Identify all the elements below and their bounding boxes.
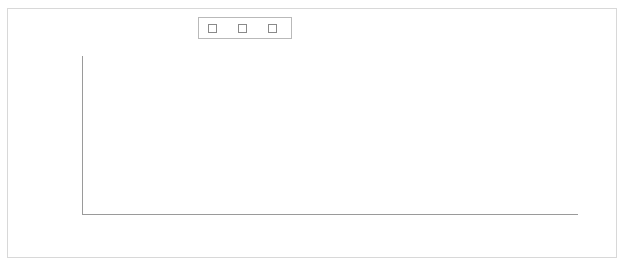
bar-chart	[0, 0, 624, 265]
legend-swatch-total-cash-outflows	[238, 24, 247, 33]
y-axis-line	[82, 56, 83, 215]
chart-frame	[7, 8, 617, 258]
chart-legend	[198, 17, 292, 39]
legend-swatch-cash-balance	[268, 24, 277, 33]
legend-item-total-cash-inflow	[208, 24, 222, 33]
legend-item-total-cash-outflows	[238, 24, 252, 33]
x-axis-line	[82, 214, 578, 215]
legend-item-cash-balance	[268, 24, 282, 33]
legend-swatch-total-cash-inflow	[208, 24, 217, 33]
